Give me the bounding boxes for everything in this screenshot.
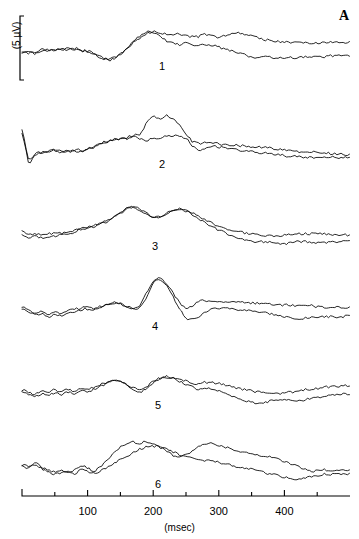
waveform-3-b	[22, 206, 349, 244]
x-tick-label-300: 300	[199, 505, 239, 517]
waveform-traces	[22, 31, 349, 480]
panel-letter-label: A	[339, 8, 349, 24]
x-axis-title: (msec)	[0, 522, 359, 533]
waveform-4-a	[22, 278, 349, 315]
trace-label-3: 3	[145, 240, 165, 252]
x-tick-label-200: 200	[133, 505, 173, 517]
axis-group	[20, 16, 350, 496]
waveform-4-b	[22, 280, 349, 320]
trace-label-4: 4	[145, 320, 165, 332]
y-axis-scale-label: (5 µV)	[11, 6, 22, 66]
erp-figure: (5 µV) A 123456 100200300400 (msec)	[0, 0, 359, 539]
waveform-plot	[0, 0, 359, 539]
waveform-3-a	[22, 207, 349, 237]
trace-label-2: 2	[152, 158, 172, 170]
trace-label-6: 6	[148, 478, 168, 490]
trace-label-5: 5	[148, 399, 168, 411]
waveform-1-a	[22, 31, 349, 60]
x-tick-label-100: 100	[68, 505, 108, 517]
x-tick-label-400: 400	[264, 505, 304, 517]
trace-label-1: 1	[152, 60, 172, 72]
waveform-6-a	[22, 441, 349, 473]
waveform-6-b	[22, 445, 349, 479]
waveform-2-b	[22, 133, 349, 162]
